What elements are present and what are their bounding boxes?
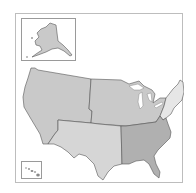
map-frame bbox=[15, 13, 183, 183]
hawaii-island[interactable] bbox=[31, 170, 34, 172]
hawaii-island[interactable] bbox=[36, 173, 40, 176]
hawaii-island[interactable] bbox=[28, 168, 30, 170]
region-southwest[interactable] bbox=[48, 120, 122, 180]
hawaii-island[interactable] bbox=[34, 171, 36, 173]
hawaii-inset bbox=[21, 161, 42, 179]
conus-map bbox=[16, 14, 184, 184]
hawaii-map bbox=[22, 162, 43, 180]
hawaii-island[interactable] bbox=[25, 167, 27, 169]
region-midwest[interactable] bbox=[89, 79, 166, 126]
